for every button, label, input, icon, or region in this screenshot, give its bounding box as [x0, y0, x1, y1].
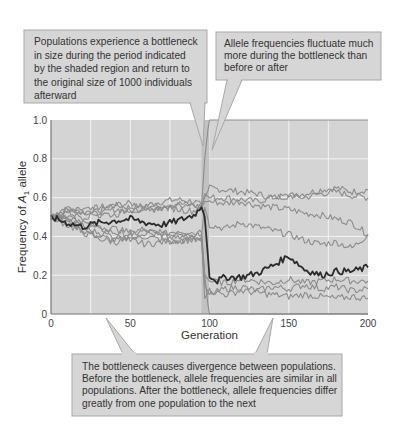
- x-axis-label: Generation: [181, 329, 238, 341]
- callout-text-line: more during the bottleneck than: [224, 50, 367, 61]
- x-tick-label: 50: [125, 318, 137, 329]
- callout-text-line: the original size of 1000 individuals: [34, 77, 192, 88]
- callout-text-line: in size during the period indicated: [34, 50, 186, 61]
- callout-text-line: before or after: [224, 62, 289, 73]
- x-tick-label: 200: [360, 318, 377, 329]
- x-tick-label: 100: [201, 318, 218, 329]
- y-tick-label: 0.2: [33, 270, 47, 281]
- callout-text-line: by the shaded region and return to: [34, 63, 190, 74]
- genetic-drift-chart: 050100150200 00.20.40.60.81.0 Generation…: [0, 0, 396, 435]
- y-axis-label: Frequency of A1 allele: [16, 161, 31, 274]
- callout-text-line: Populations experience a bottleneck: [34, 36, 199, 47]
- y-tick-labels: 00.20.40.60.81.0: [33, 115, 47, 320]
- callout-text-line: The bottleneck causes divergence between…: [82, 361, 336, 372]
- callout-text-line: greatly from one population to the next: [82, 398, 256, 409]
- y-tick-label: 1.0: [33, 115, 47, 126]
- y-tick-label: 0.8: [33, 153, 47, 164]
- y-tick-label: 0.6: [33, 192, 47, 203]
- x-tick-label: 150: [280, 318, 297, 329]
- callout-text-line: populations. After the bottleneck, allel…: [82, 385, 338, 396]
- callout-text-line: Before the bottleneck, allele frequencie…: [82, 373, 337, 384]
- callout-text-line: afterward: [34, 90, 77, 101]
- callout-text-line: Allele frequencies fluctuate much: [224, 38, 374, 49]
- x-tick-labels: 050100150200: [48, 318, 377, 329]
- y-tick-label: 0: [41, 309, 47, 320]
- y-tick-label: 0.4: [33, 231, 47, 242]
- x-tick-label: 0: [48, 318, 54, 329]
